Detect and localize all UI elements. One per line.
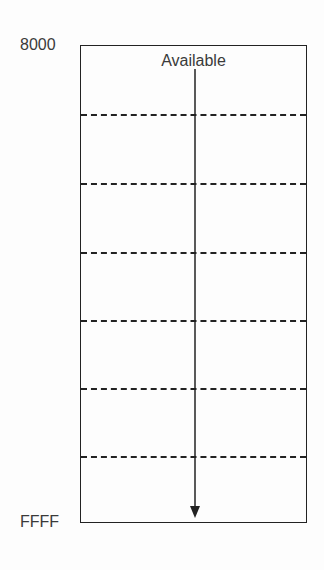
- memory-region-box: Available: [80, 45, 307, 523]
- address-top-label: 8000: [20, 36, 56, 54]
- address-bottom-label: FFFF: [20, 513, 59, 531]
- down-arrow-icon: [81, 46, 308, 524]
